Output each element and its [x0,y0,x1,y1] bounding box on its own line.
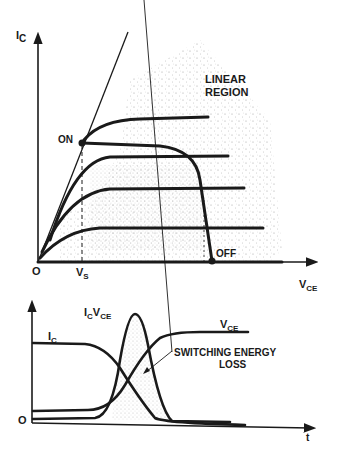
bottom-origin-label: O [18,414,27,426]
on-point [79,140,86,147]
linear-region-label-2: REGION [205,86,248,98]
off-point [209,258,216,265]
origin-label: O [32,265,41,277]
loss-label-2: LOSS [219,359,247,370]
on-label: ON [58,134,73,145]
y-axis-label: IC [16,29,26,44]
vs-label: VS [76,266,89,281]
loss-label-1: SWITCHING ENERGY [174,347,277,358]
time-axis [32,423,310,428]
transistor-switching-diagram: IC ON OFF O VS VCE LINEAR REGION IC ICVC… [0,0,341,454]
linear-region-label-1: LINEAR [205,73,246,85]
linear-region-dense-shading [90,165,205,250]
icvce-label: ICVCE [84,306,112,321]
x-axis-label: VCE [299,278,318,293]
time-axis-label: t [306,432,310,443]
output-characteristics-plot: IC ON OFF O VS VCE LINEAR REGION [16,29,318,293]
off-label: OFF [216,248,236,259]
